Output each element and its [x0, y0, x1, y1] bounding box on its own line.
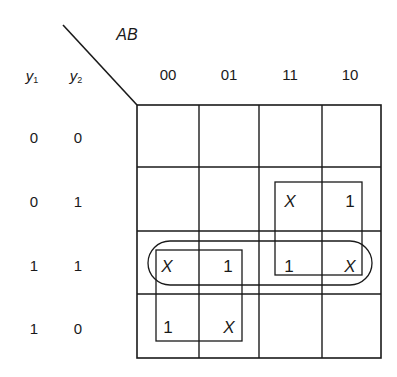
cell-value: 1 — [284, 258, 293, 275]
cell-value: X — [161, 258, 172, 275]
row-var-name: y — [26, 67, 34, 84]
row-var-subscript: 2 — [77, 75, 82, 85]
row-header-y2: 0 — [74, 130, 82, 145]
cell-value: X — [284, 193, 295, 210]
karnaugh-map-lines — [0, 0, 397, 377]
row-variable-y1: y1 — [26, 68, 39, 85]
row-header-y2: 1 — [74, 258, 82, 273]
row-var-name: y — [70, 67, 78, 84]
row-header-y1: 0 — [30, 130, 38, 145]
row-header-y1: 1 — [30, 321, 38, 336]
column-header: 11 — [282, 67, 298, 82]
column-header: 01 — [221, 67, 238, 82]
row-variable-y2: y2 — [70, 68, 83, 85]
row-header-y1: 0 — [30, 194, 38, 209]
group-loop-row — [148, 241, 372, 285]
row-var-subscript: 1 — [33, 75, 38, 85]
cell-value: 1 — [223, 258, 232, 275]
row-header-y1: 1 — [30, 258, 38, 273]
row-header-y2: 1 — [74, 194, 82, 209]
cell-value: 1 — [345, 193, 354, 210]
cell-value: X — [223, 319, 234, 336]
row-header-y2: 0 — [74, 321, 82, 336]
cell-value: X — [344, 258, 355, 275]
cell-value: 1 — [163, 319, 172, 336]
column-variable-label: AB — [116, 27, 137, 43]
column-header: 10 — [342, 67, 359, 82]
column-header: 00 — [160, 67, 177, 82]
